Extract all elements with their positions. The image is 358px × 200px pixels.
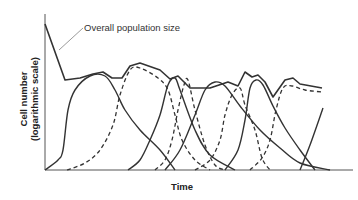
- subpopulation-curve-8: [250, 85, 322, 170]
- subpopulation-curves: [45, 67, 330, 170]
- annotation-label: Overall population size: [84, 22, 180, 33]
- x-axis-label: Time: [171, 181, 193, 192]
- subpopulation-curve-2: [67, 67, 210, 170]
- y-axis-label: Cell number (logarithmic scale): [18, 44, 40, 154]
- overall-population-line: [45, 24, 322, 97]
- y-axis-label-line1: Cell number: [18, 44, 29, 154]
- y-axis-label-line2: (logarithmic scale): [29, 44, 40, 154]
- subpopulation-curve-9: [300, 108, 323, 170]
- subpopulation-curve-1: [45, 74, 175, 170]
- annotation-leader-line: [59, 28, 83, 50]
- subpopulation-curve-7: [225, 80, 315, 170]
